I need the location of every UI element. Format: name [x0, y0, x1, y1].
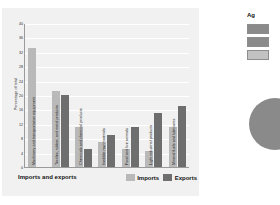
legend-item: Imports	[126, 174, 160, 181]
bar-exports	[154, 113, 162, 167]
side-legend-swatch	[247, 24, 269, 34]
bar-exports	[61, 95, 69, 167]
bar-exports	[178, 106, 186, 167]
legend-item: Exports	[163, 174, 197, 181]
chart-legend: ImportsExports	[126, 174, 197, 181]
side-legend-swatch	[247, 37, 269, 47]
bar-chart-panel: Percentage of total 0481216202428323640 …	[0, 0, 205, 205]
y-tick-label: 8	[21, 137, 23, 141]
side-panel-legend	[247, 24, 269, 60]
y-tick-label: 12	[19, 123, 23, 127]
bar-group: Light industrial products	[145, 24, 162, 167]
legend-label: Exports	[175, 175, 197, 181]
category-label: Food and live animals	[125, 128, 129, 165]
side-panel-clipped: Ag	[205, 0, 280, 205]
y-tick-label: 16	[19, 108, 23, 112]
y-tick-label: 4	[21, 152, 23, 156]
side-panel-title: Ag	[247, 12, 255, 18]
y-axis-tick-labels: 0481216202428323640	[13, 24, 23, 168]
bar-group: Machinery and transportation equipment	[28, 24, 45, 167]
bar-group: Mineral fuels and lubricants	[169, 24, 186, 167]
y-tick-label: 24	[19, 80, 23, 84]
y-tick-label: 40	[19, 22, 23, 26]
screenshot-root: Percentage of total 0481216202428323640 …	[0, 0, 280, 205]
y-tick-label: 36	[19, 36, 23, 40]
bar-group: Textiles, rubber, and metal products	[52, 24, 69, 167]
x-axis-line	[24, 167, 189, 168]
x-axis-title: Imports and exports	[18, 174, 77, 180]
bar-exports	[84, 149, 92, 167]
bar-exports	[131, 127, 139, 167]
side-legend-swatch	[247, 50, 269, 60]
category-label: Inedible raw materials	[102, 128, 106, 165]
category-label: Chemicals and chemical products	[79, 108, 83, 165]
bar-group: Food and live animals	[122, 24, 139, 167]
legend-swatch	[163, 174, 172, 181]
category-label: Light industrial products	[149, 125, 153, 165]
bar-group: Inedible raw materials	[98, 24, 115, 167]
legend-label: Imports	[137, 175, 159, 181]
legend-swatch	[126, 174, 135, 181]
pie-chart-partial	[249, 98, 280, 150]
category-label: Machinery and transportation equipment	[32, 97, 36, 165]
y-tick-label: 32	[19, 51, 23, 55]
y-tick-label: 28	[19, 65, 23, 69]
y-tick-label: 20	[19, 94, 23, 98]
y-tick-label: 0	[21, 166, 23, 170]
plot-area: Machinery and transportation equipmentTe…	[24, 24, 189, 168]
bar-groups: Machinery and transportation equipmentTe…	[25, 24, 189, 167]
category-label: Textiles, rubber, and metal products	[55, 105, 59, 165]
bar-group: Chemicals and chemical products	[75, 24, 92, 167]
category-label: Mineral fuels and lubricants	[172, 119, 176, 165]
bar-exports	[107, 135, 115, 167]
